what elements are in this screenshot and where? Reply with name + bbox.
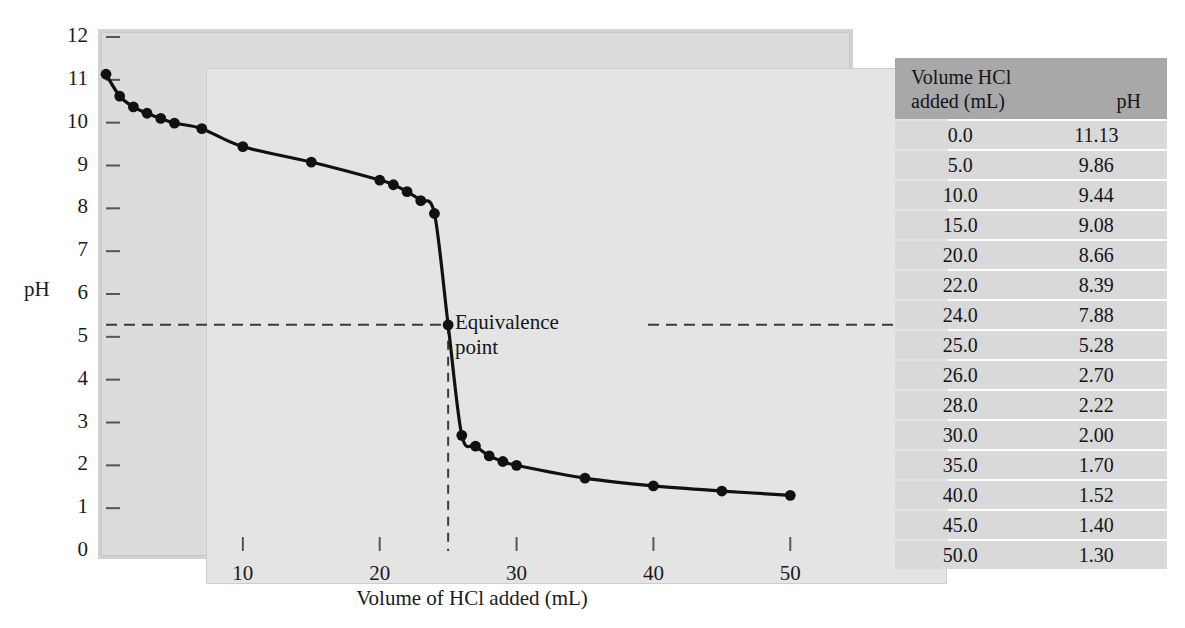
data-point-35 (580, 473, 591, 484)
y-tick-label-7: 7 (48, 237, 88, 262)
table-cell-ph: 1.52 (1026, 481, 1167, 509)
table-cell-volume: 40.0 (895, 481, 1026, 509)
data-point-2 (128, 101, 139, 112)
y-axis-title: pH (24, 277, 50, 302)
table-row: 15.09.08 (895, 211, 1167, 239)
table-cell-ph: 1.30 (1026, 541, 1167, 569)
data-point-0 (101, 69, 112, 80)
data-point-50 (785, 490, 796, 501)
table-cell-volume: 35.0 (895, 451, 1026, 479)
y-tick-label-8: 8 (48, 194, 88, 219)
table-row: 5.09.86 (895, 151, 1167, 179)
y-tick-label-1: 1 (48, 494, 88, 519)
y-tick-label-12: 12 (48, 23, 88, 48)
x-tick-label-50: 50 (767, 561, 813, 586)
x-tick-label-40: 40 (630, 561, 676, 586)
table-cell-ph: 2.70 (1026, 361, 1167, 389)
table-cell-volume: 30.0 (895, 421, 1026, 449)
data-point-25 (443, 319, 454, 330)
data-point-3 (142, 108, 153, 119)
table-cell-volume: 25.0 (895, 331, 1026, 359)
data-point-28 (484, 451, 495, 462)
table-cell-ph: 5.28 (1026, 331, 1167, 359)
data-point-7 (196, 123, 207, 134)
data-point-23 (415, 195, 426, 206)
data-point-1 (114, 91, 125, 102)
data-point-30 (511, 460, 522, 471)
table-cell-ph: 2.22 (1026, 391, 1167, 419)
data-point-markers (101, 69, 796, 501)
table-row: 30.02.00 (895, 421, 1167, 449)
table-cell-ph: 2.00 (1026, 421, 1167, 449)
data-point-4 (155, 113, 166, 124)
table-cell-ph: 9.44 (1026, 181, 1167, 209)
table-cell-ph: 11.13 (1026, 121, 1167, 149)
table-header: Volume HCl added (mL) pH (895, 58, 1167, 119)
table-row: 10.09.44 (895, 181, 1167, 209)
titration-figure: 0123456789101112 pH 1020304050 Volume of… (0, 0, 1185, 628)
table-header-row: Volume HCl added (mL) pH (895, 58, 1167, 119)
table-body: 0.011.135.09.8610.09.4415.09.0820.08.662… (895, 121, 1167, 569)
data-point-24 (429, 208, 440, 219)
table-cell-volume: 45.0 (895, 511, 1026, 539)
equivalence-annotation-line2: point (455, 335, 559, 360)
y-tick-label-2: 2 (48, 451, 88, 476)
data-point-21 (388, 179, 399, 190)
table-row: 35.01.70 (895, 451, 1167, 479)
y-tick-label-5: 5 (48, 323, 88, 348)
y-tick-label-9: 9 (48, 152, 88, 177)
x-axis-ticks (243, 537, 790, 551)
data-point-45 (716, 486, 727, 497)
table-header-volume-line2: added (mL) (911, 89, 1026, 113)
data-point-10 (237, 141, 248, 152)
table-header-ph: pH (1026, 58, 1167, 119)
table-row: 22.08.39 (895, 271, 1167, 299)
data-point-26 (456, 430, 467, 441)
titration-data-table: Volume HCl added (mL) pH 0.011.135.09.86… (895, 56, 1167, 571)
table-cell-ph: 9.86 (1026, 151, 1167, 179)
table-cell-ph: 8.66 (1026, 241, 1167, 269)
data-point-29 (497, 456, 508, 467)
data-point-22 (402, 186, 413, 197)
table-cell-volume: 15.0 (895, 211, 1026, 239)
table-cell-ph: 1.40 (1026, 511, 1167, 539)
y-tick-label-6: 6 (48, 280, 88, 305)
table-row: 40.01.52 (895, 481, 1167, 509)
y-tick-label-10: 10 (48, 109, 88, 134)
titration-curve-line (106, 74, 790, 495)
table-cell-volume: 28.0 (895, 391, 1026, 419)
table-header-volume: Volume HCl added (mL) (895, 58, 1026, 119)
data-point-27 (470, 441, 481, 452)
table-row: 26.02.70 (895, 361, 1167, 389)
table-cell-volume: 24.0 (895, 301, 1026, 329)
table-header-volume-line1: Volume HCl (911, 65, 1026, 89)
table-row: 24.07.88 (895, 301, 1167, 329)
table-row: 20.08.66 (895, 241, 1167, 269)
table-cell-ph: 8.39 (1026, 271, 1167, 299)
data-point-40 (648, 480, 659, 491)
table-row: 28.02.22 (895, 391, 1167, 419)
table-cell-volume: 22.0 (895, 271, 1026, 299)
table-cell-ph: 9.08 (1026, 211, 1167, 239)
table-header-ph-label: pH (1026, 82, 1167, 119)
table-row: 50.01.30 (895, 541, 1167, 569)
table-row: 45.01.40 (895, 511, 1167, 539)
x-tick-label-30: 30 (494, 561, 540, 586)
y-tick-label-0: 0 (48, 537, 88, 562)
equivalence-annotation-line1: Equivalence (455, 310, 559, 335)
data-point-5 (169, 118, 180, 129)
y-axis-ticks (106, 37, 120, 508)
table-cell-ph: 7.88 (1026, 301, 1167, 329)
table-cell-volume: 0.0 (895, 121, 1026, 149)
table-cell-volume: 20.0 (895, 241, 1026, 269)
y-tick-label-11: 11 (48, 66, 88, 91)
data-point-20 (374, 175, 385, 186)
table-cell-volume: 10.0 (895, 181, 1026, 209)
table-row: 0.011.13 (895, 121, 1167, 149)
equivalence-point-annotation: Equivalence point (455, 310, 559, 360)
table-cell-ph: 1.70 (1026, 451, 1167, 479)
data-point-15 (306, 157, 317, 168)
table-row: 25.05.28 (895, 331, 1167, 359)
x-tick-label-20: 20 (357, 561, 403, 586)
y-tick-label-3: 3 (48, 409, 88, 434)
